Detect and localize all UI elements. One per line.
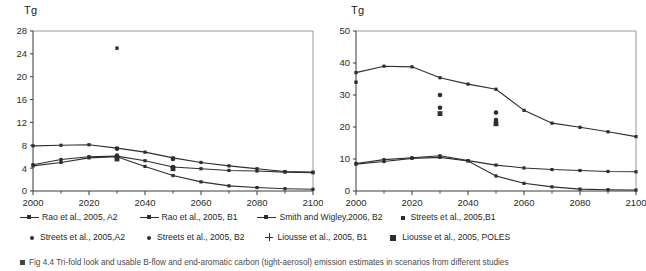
- scatter-point-right-2: [438, 106, 443, 111]
- legend-label: Streets et al., 2005, B2: [157, 232, 244, 242]
- x-tick-label-left: 2040: [134, 197, 155, 208]
- y-tick-label-left: 12: [16, 117, 27, 128]
- series-point-left-2: [31, 164, 34, 167]
- scatter-point-right-0: [354, 81, 357, 84]
- legend-item-2-3[interactable]: Liousse et al., 2005, B1: [264, 232, 367, 242]
- plot-area-right: 01020304050200020202040206020802100: [323, 0, 646, 212]
- figure-container: Tg 0481216202428200020202040206020802100…: [0, 0, 646, 271]
- y-tick-label-right: 20: [339, 121, 350, 132]
- series-point-right-2: [634, 188, 637, 191]
- series-point-left-2: [143, 165, 146, 168]
- x-tick-label-left: 2080: [246, 197, 267, 208]
- x-tick-label-left: 2060: [190, 197, 211, 208]
- series-point-right-1: [634, 170, 637, 173]
- series-point-left-1: [283, 171, 286, 174]
- series-point-left-0: [59, 144, 62, 147]
- y-tick-label-left: 24: [16, 48, 27, 59]
- series-point-left-0: [227, 164, 230, 167]
- series-point-right-1: [550, 168, 553, 171]
- x-tick-label-right: 2060: [513, 197, 534, 208]
- x-tick-label-right: 2020: [401, 197, 422, 208]
- legend-row-2: Streets et al., 2005,A2Streets et al., 2…: [0, 232, 646, 242]
- y-tick-label-left: 8: [22, 140, 27, 151]
- chart-panel-left: Tg 0481216202428200020202040206020802100: [0, 0, 323, 212]
- series-point-right-1: [578, 169, 581, 172]
- series-point-right-0: [382, 65, 385, 68]
- x-tick-label-right: 2100: [625, 197, 646, 208]
- series-point-right-2: [354, 163, 357, 166]
- series-point-left-2: [283, 187, 286, 190]
- series-point-right-2: [550, 185, 553, 188]
- scatter-point-right-1: [494, 110, 499, 115]
- series-point-left-0: [199, 161, 202, 164]
- caption-text: Fig 4.4 Tri-fold look and usable B-flow …: [29, 258, 509, 267]
- legend-item-2-1[interactable]: Streets et al., 2005,A2: [28, 232, 125, 242]
- legend-label: Liousse et al., 2005, POLES: [402, 232, 510, 242]
- caption-bullet-icon: [20, 260, 25, 265]
- legend-item-1-4[interactable]: Streets et al., 2005,B1: [399, 212, 496, 222]
- line-marker-icon: [140, 213, 159, 222]
- y-tick-label-left: 28: [16, 25, 27, 36]
- series-point-right-2: [578, 187, 581, 190]
- scatter-point-left-4: [171, 166, 176, 171]
- legend-item-1-2[interactable]: Rao et al., 2005, B1: [140, 212, 238, 222]
- series-point-left-2: [227, 184, 230, 187]
- y-tick-label-left: 16: [16, 94, 27, 105]
- series-point-left-0: [31, 144, 34, 147]
- legend-item-2-4[interactable]: Liousse et al., 2005, POLES: [389, 232, 510, 242]
- scatter-point-left-1: [171, 157, 176, 162]
- legend-item-2-2[interactable]: Streets et al., 2005, B2: [145, 232, 244, 242]
- figure-caption: Fig 4.4 Tri-fold look and usable B-flow …: [0, 256, 646, 271]
- series-point-right-2: [522, 182, 525, 185]
- series-point-left-2: [311, 188, 314, 191]
- series-point-right-0: [522, 109, 525, 112]
- series-point-right-1: [606, 170, 609, 173]
- series-point-left-2: [255, 186, 258, 189]
- legend-item-1-1[interactable]: Rao et al., 2005, A2: [20, 212, 118, 222]
- series-point-left-0: [87, 143, 90, 146]
- legend-label: Rao et al., 2005, B1: [162, 212, 238, 222]
- series-point-right-0: [494, 88, 497, 91]
- series-point-right-0: [606, 130, 609, 133]
- legend-label: Streets et al., 2005,A2: [40, 232, 125, 242]
- series-point-right-2: [606, 188, 609, 191]
- series-point-left-2: [199, 180, 202, 183]
- x-tick-label-left: 2020: [78, 197, 99, 208]
- series-point-right-0: [410, 65, 413, 68]
- legend-label: Liousse et al., 2005, B1: [277, 232, 367, 242]
- small-square-marker-icon: [399, 213, 408, 222]
- x-tick-label-right: 2080: [569, 197, 590, 208]
- series-point-left-2: [87, 156, 90, 159]
- plus-marker-icon: [264, 233, 274, 242]
- x-tick-label-left: 2100: [302, 197, 323, 208]
- series-point-right-2: [410, 157, 413, 160]
- series-point-right-2: [466, 159, 469, 162]
- legend-row-1: Rao et al., 2005, A2Rao et al., 2005, B1…: [0, 212, 646, 222]
- series-point-left-1: [311, 171, 314, 174]
- series-point-right-2: [494, 174, 497, 177]
- scatter-point-right-1: [438, 93, 443, 98]
- series-point-left-1: [255, 169, 258, 172]
- x-tick-label-right: 2000: [345, 197, 366, 208]
- series-point-right-2: [438, 156, 441, 159]
- series-point-right-0: [354, 71, 357, 74]
- scatter-point-left-0: [115, 46, 118, 49]
- chart-panel-right: Tg 01020304050200020202040206020802100: [323, 0, 646, 212]
- series-line-left-2: [33, 157, 313, 190]
- series-point-right-0: [550, 122, 553, 125]
- x-tick-label-left: 2000: [22, 197, 43, 208]
- series-point-left-1: [59, 158, 62, 161]
- series-line-right-2: [356, 157, 636, 190]
- large-square-marker-icon: [389, 233, 399, 242]
- series-point-left-2: [171, 174, 174, 177]
- circle-marker-icon: [145, 233, 154, 242]
- series-point-left-1: [199, 167, 202, 170]
- series-point-right-0: [438, 76, 441, 79]
- scatter-point-left-1: [115, 146, 120, 151]
- legend-item-1-3[interactable]: Smith and Wigley,2006, B2: [257, 212, 382, 222]
- line-marker-icon: [257, 213, 276, 222]
- series-point-right-0: [634, 135, 637, 138]
- legend-label: Streets et al., 2005,B1: [411, 212, 496, 222]
- plot-area-left: 0481216202428200020202040206020802100: [0, 0, 323, 212]
- circle-marker-icon: [28, 233, 37, 242]
